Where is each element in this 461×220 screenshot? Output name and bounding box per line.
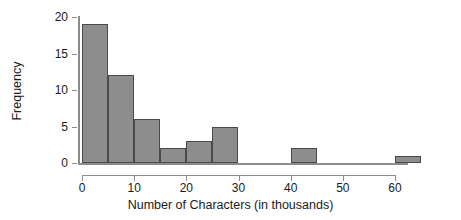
- x-axis-title: Number of Characters (in thousands): [0, 198, 461, 212]
- x-tick-label: 30: [219, 182, 259, 194]
- histogram-chart: 0102030405060 05101520 Number of Charact…: [0, 0, 461, 220]
- y-tick-mark: [72, 90, 77, 91]
- histogram-bar: [82, 24, 108, 163]
- histogram-bar: [395, 156, 421, 163]
- histogram-bar: [108, 75, 134, 163]
- plot-area: 0102030405060 05101520 Number of Charact…: [0, 0, 461, 220]
- y-tick-label: 15: [42, 48, 68, 60]
- y-tick-label: 10: [42, 84, 68, 96]
- x-axis-line: [78, 163, 408, 165]
- y-axis-line: [78, 16, 80, 165]
- y-tick-label: 0: [42, 157, 68, 169]
- x-tick-label: 10: [114, 182, 154, 194]
- y-tick-mark: [72, 17, 77, 18]
- histogram-bar: [186, 141, 212, 163]
- histogram-bar: [134, 119, 160, 163]
- y-tick-label: 5: [42, 121, 68, 133]
- histogram-bar: [160, 148, 186, 163]
- x-tick-label: 40: [271, 182, 311, 194]
- x-tick-label: 20: [166, 182, 206, 194]
- y-axis-title: Frequency: [10, 36, 24, 146]
- y-tick-label: 20: [42, 11, 68, 23]
- x-tick-label: 60: [375, 182, 415, 194]
- y-tick-mark: [72, 54, 77, 55]
- x-tick-label: 50: [323, 182, 363, 194]
- histogram-bar: [291, 148, 317, 163]
- y-tick-mark: [72, 163, 77, 164]
- y-tick-mark: [72, 127, 77, 128]
- x-tick-label: 0: [62, 182, 102, 194]
- histogram-bar: [212, 127, 238, 164]
